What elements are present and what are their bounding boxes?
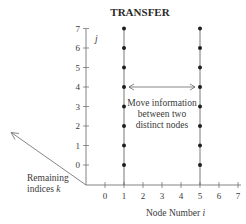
x-tick-label: 3 (160, 191, 165, 201)
node-dot (198, 163, 202, 167)
x-tick-label: 0 (103, 191, 108, 201)
y-tick-label: 4 (76, 82, 81, 92)
depth-axis-label-line1: Remaining (27, 173, 69, 183)
x-axis-label: Node Number i (146, 208, 205, 218)
node-dot (198, 46, 202, 50)
y-tick-label: 3 (76, 102, 81, 112)
node-dot (198, 66, 202, 70)
y-tick-label: 7 (76, 24, 81, 34)
node-dot (122, 105, 126, 109)
depth-axis-label-line2: indices k (27, 184, 61, 194)
annotation-line1: Move information (127, 98, 197, 108)
y-tick-label: 0 (76, 160, 81, 170)
node-column-5 (198, 27, 202, 186)
diagram-title: TRANSFER (110, 6, 170, 18)
x-axis: 01234567 Node Number i (86, 182, 241, 218)
y-tick-label: 6 (76, 43, 81, 53)
y-tick-label: 2 (76, 121, 81, 131)
x-tick-label: 4 (179, 191, 184, 201)
node-dot (122, 27, 126, 31)
node-dot (122, 85, 126, 89)
node-column-1 (122, 27, 126, 186)
y-tick-label: 5 (76, 63, 81, 73)
x-tick-label: 6 (217, 191, 222, 201)
node-dot (122, 124, 126, 128)
x-tick-label: 5 (198, 191, 203, 201)
node-dot (122, 163, 126, 167)
x-tick-label: 2 (141, 191, 146, 201)
node-dot (198, 105, 202, 109)
node-dot (198, 144, 202, 148)
annotation-line2: between two (138, 109, 187, 119)
node-dot (198, 124, 202, 128)
y-axis: 01234567 j (76, 24, 99, 186)
transfer-diagram: TRANSFER 01234567 j 01234567 Node Number… (0, 0, 246, 224)
node-dot (198, 27, 202, 31)
transfer-annotation: Move information between two distinct no… (127, 98, 197, 130)
node-dot (122, 46, 126, 50)
node-dot (122, 144, 126, 148)
x-tick-label: 1 (122, 191, 127, 201)
annotation-line3: distinct nodes (136, 120, 189, 130)
transfer-arrow (129, 84, 195, 90)
x-tick-label: 7 (236, 191, 241, 201)
node-dot (198, 85, 202, 89)
y-axis-label: j (93, 34, 98, 44)
node-dot (122, 66, 126, 70)
y-tick-label: 1 (76, 141, 81, 151)
